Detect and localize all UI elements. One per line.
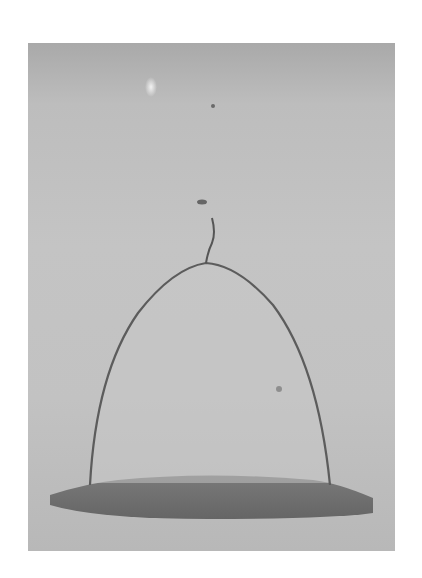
bell-dome-illustration — [28, 43, 395, 551]
apex-filament — [206, 218, 214, 263]
photograph — [28, 43, 395, 551]
highlight-spot — [145, 77, 157, 97]
